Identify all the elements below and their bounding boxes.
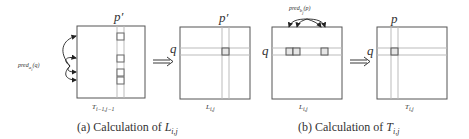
matrix3-label-sub: i,j bbox=[303, 106, 308, 112]
matrix1-label-sub: i−1,j−1 bbox=[96, 106, 114, 112]
caption-b-text: (b) Calculation of bbox=[298, 120, 386, 134]
matrix4-row-label: q bbox=[367, 43, 374, 59]
matrix4-label: Ti,j bbox=[405, 103, 414, 112]
matrix4-top-label: p bbox=[391, 11, 398, 27]
matrix4-label-sub: i,j bbox=[409, 106, 414, 112]
matrix-l-input bbox=[272, 27, 342, 99]
matrix1-label: Ti−1,j−1 bbox=[92, 103, 114, 112]
pred-a-text: pred bbox=[18, 62, 29, 68]
caption-a-sub: i,j bbox=[171, 127, 177, 136]
pred-a-arg: (q) bbox=[32, 62, 39, 68]
matrix2-top-label: p′ bbox=[219, 10, 228, 26]
pred-a-label: predai(q) bbox=[18, 62, 39, 72]
pred-b-label: predbj(p) bbox=[289, 5, 310, 15]
pred-b-text: pred bbox=[289, 5, 300, 11]
pred-b-arrows bbox=[289, 19, 325, 27]
matrix-t-result bbox=[377, 27, 447, 99]
matrix2-row-label: q bbox=[170, 41, 177, 57]
matrix-t-prev bbox=[77, 26, 145, 98]
matrix-l-result bbox=[180, 27, 250, 99]
cell-3 bbox=[117, 69, 124, 76]
matrix1-top-label: p′ bbox=[114, 9, 123, 25]
pred-a-arrows bbox=[63, 36, 76, 80]
matrix3-row-label: q bbox=[262, 43, 269, 59]
diagram-canvas bbox=[0, 0, 469, 139]
matrix2-label: Li,j bbox=[206, 103, 215, 112]
caption-b: (b) Calculation of Ti,j bbox=[298, 120, 399, 136]
caption-b-var: T bbox=[386, 120, 393, 134]
matrix2-label-sub: i,j bbox=[210, 106, 215, 112]
caption-b-sub: i,j bbox=[393, 127, 399, 136]
matrix3-label: Li,j bbox=[299, 103, 308, 112]
caption-a-text: (a) Calculation of bbox=[77, 120, 165, 134]
pred-b-arg: (p) bbox=[303, 5, 310, 11]
cell-4 bbox=[117, 77, 124, 84]
implies-arrow-1 bbox=[153, 57, 173, 66]
cell-2 bbox=[117, 55, 124, 62]
cell-1 bbox=[117, 33, 124, 40]
caption-a: (a) Calculation of Li,j bbox=[77, 120, 178, 136]
